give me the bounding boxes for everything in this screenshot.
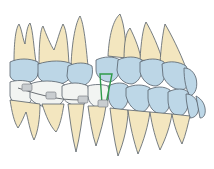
canine-bracket [98, 100, 108, 107]
dental-illustration: Dental arch illustration with orthodonti… [0, 0, 214, 169]
teeth-drawing [0, 0, 214, 169]
